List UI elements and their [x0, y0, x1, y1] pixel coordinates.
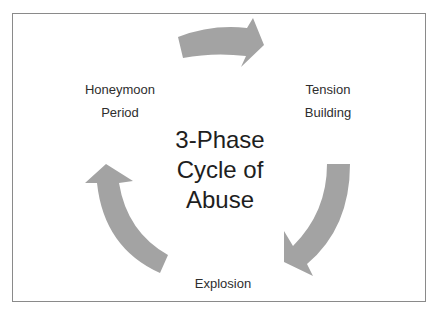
arrow-tension-to-explosion — [284, 164, 350, 276]
phase-explosion-line1: Explosion — [185, 272, 261, 295]
phase-tension-label: Tension Building — [290, 78, 366, 124]
diagram-title-line2: Cycle of — [160, 155, 280, 185]
phase-honeymoon-line1: Honeymoon — [78, 78, 162, 101]
arrow-honeymoon-to-tension — [178, 18, 264, 67]
phase-honeymoon-line2: Period — [78, 101, 162, 124]
diagram-title-line1: 3-Phase — [160, 125, 280, 155]
phase-tension-line1: Tension — [290, 78, 366, 101]
phase-honeymoon-label: Honeymoon Period — [78, 78, 162, 124]
arrow-explosion-to-honeymoon — [85, 164, 168, 273]
phase-explosion-label: Explosion — [185, 272, 261, 295]
phase-tension-line2: Building — [290, 101, 366, 124]
diagram-title: 3-Phase Cycle of Abuse — [160, 125, 280, 215]
diagram-title-line3: Abuse — [160, 185, 280, 215]
